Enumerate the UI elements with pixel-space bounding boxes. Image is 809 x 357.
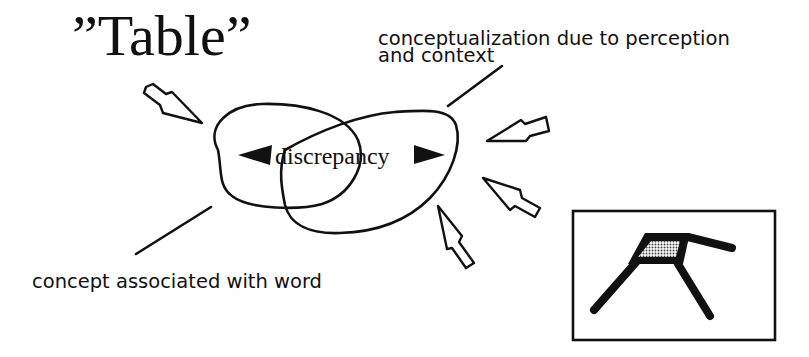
input-arrow-lower-icon: [438, 206, 474, 268]
discrepancy-label: discrepancy: [275, 142, 390, 170]
input-arrow-upper-left-icon: [144, 84, 202, 123]
word-concept-leader-line: [136, 207, 211, 254]
diagram-canvas: ”Table” conceptualization due to percept…: [0, 0, 809, 357]
context-concept-label: conceptualization due to perception and …: [378, 30, 730, 64]
right-arrowhead-icon: [414, 145, 445, 164]
table-picture-frame: [573, 211, 775, 340]
input-arrow-right-upper-icon: [487, 117, 549, 141]
input-arrow-right-middle-icon: [483, 178, 540, 217]
left-arrowhead-icon: [238, 145, 272, 165]
word-concept-label: concept associated with word: [32, 271, 322, 293]
context-concept-blob: [281, 111, 458, 233]
title-word: ”Table”: [72, 4, 251, 68]
context-leader-line: [448, 66, 502, 106]
